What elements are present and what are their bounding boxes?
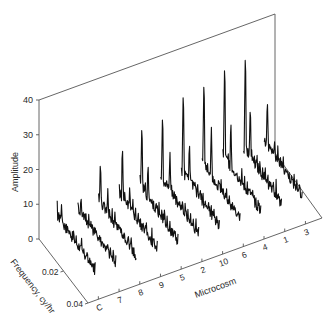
spectrum-trace-C	[57, 201, 95, 275]
microcosm-tick-label: 5	[178, 272, 186, 283]
spectrum-trace-10	[181, 98, 219, 229]
amplitude-axis: 010203040	[23, 95, 39, 244]
microcosm-tick-label: 10	[217, 256, 230, 269]
spectrum-trace-6	[202, 87, 240, 220]
microcosm-tick-label: 3	[302, 227, 310, 238]
spectrum-trace-7	[78, 199, 116, 266]
microcosm-tick-label: 6	[240, 249, 248, 260]
microcosm-tick-label: 8	[137, 287, 145, 298]
frequency-tick	[85, 303, 88, 304]
frequency-tick-label: 0.02	[42, 267, 59, 277]
axes-frame	[39, 14, 322, 303]
microcosm-tick-label: 9	[158, 279, 166, 290]
microcosm-tick-label: 4	[261, 242, 269, 253]
frequency-tick	[61, 271, 64, 272]
microcosm-tick-label: 1	[282, 234, 290, 245]
amplitude-tick-label: 20	[23, 165, 33, 175]
spectrum-trace-2	[161, 120, 199, 236]
microcosm-axis: C78952106413	[95, 221, 311, 313]
frequency-tick-label: 0.04	[66, 299, 83, 309]
waterfall-chart: 010203040 Amplitude 0.020.04 Frequency, …	[0, 0, 334, 324]
amplitude-tick-label: 30	[23, 130, 33, 140]
frequency-axis-label: Frequency, cy/hr	[8, 257, 57, 315]
amplitude-tick-label: 10	[23, 199, 33, 209]
microcosm-tick-label: C	[95, 302, 104, 313]
spectrum-trace-1	[244, 60, 282, 206]
amplitude-axis-label: Amplitude	[10, 152, 20, 192]
amplitude-tick-label: 40	[23, 95, 33, 105]
microcosm-tick-label: 2	[199, 264, 207, 275]
amplitude-tick-label: 0	[28, 234, 33, 244]
microcosm-axis-label: Microcosm	[193, 276, 237, 300]
microcosm-tick-label: 7	[116, 294, 124, 305]
spectrum-trace-4	[223, 71, 261, 213]
